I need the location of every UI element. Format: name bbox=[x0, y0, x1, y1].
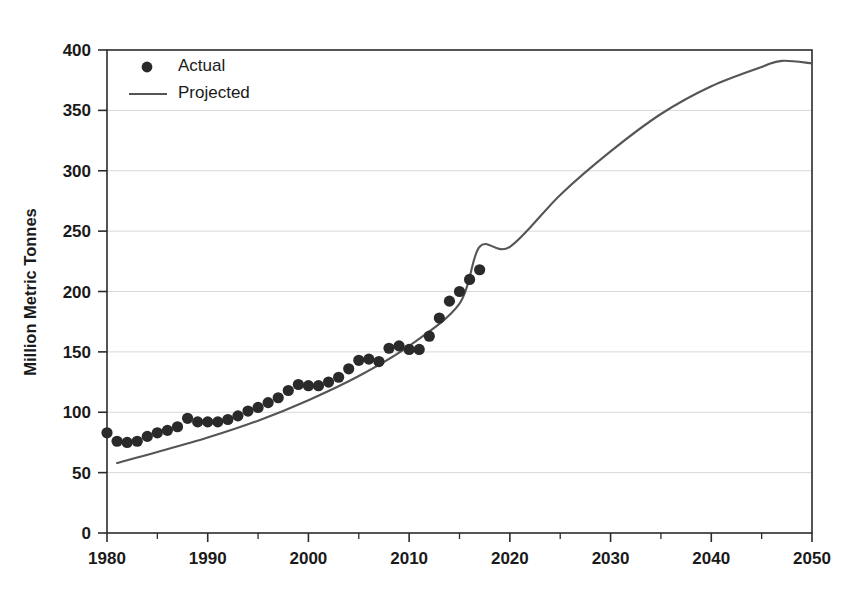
data-point bbox=[373, 356, 384, 367]
data-point bbox=[263, 397, 274, 408]
y-axis-tick-label: 250 bbox=[63, 222, 91, 241]
chart-container: 050100150200250300350400 198019902000201… bbox=[0, 0, 868, 601]
chart-legend: Actual Projected bbox=[129, 56, 250, 102]
x-axis-tick-label: 2030 bbox=[592, 549, 630, 568]
data-point bbox=[152, 427, 163, 438]
data-point bbox=[363, 354, 374, 365]
x-axis-tick-label: 2050 bbox=[793, 549, 831, 568]
data-point bbox=[172, 421, 183, 432]
data-point bbox=[182, 413, 193, 424]
data-point bbox=[414, 344, 425, 355]
x-axis-tick-label: 2000 bbox=[290, 549, 328, 568]
data-point bbox=[101, 427, 112, 438]
data-point bbox=[323, 376, 334, 387]
data-point bbox=[192, 416, 203, 427]
data-point bbox=[293, 379, 304, 390]
x-axis-tick-label: 2040 bbox=[692, 549, 730, 568]
legend-dot-icon bbox=[142, 62, 153, 73]
data-point bbox=[202, 416, 213, 427]
legend-label-projected: Projected bbox=[178, 83, 250, 102]
data-point bbox=[454, 286, 465, 297]
chart-figure: 050100150200250300350400 198019902000201… bbox=[0, 0, 868, 601]
data-point bbox=[222, 414, 233, 425]
y-axis-tick-label: 150 bbox=[63, 343, 91, 362]
y-axis-tick-label: 50 bbox=[72, 464, 91, 483]
y-axis-tick-label: 300 bbox=[63, 162, 91, 181]
data-point bbox=[434, 312, 445, 323]
x-axis-tick-label: 2010 bbox=[390, 549, 428, 568]
data-point bbox=[212, 416, 223, 427]
data-point bbox=[132, 436, 143, 447]
data-point bbox=[252, 402, 263, 413]
data-point bbox=[393, 340, 404, 351]
data-point bbox=[343, 363, 354, 374]
data-point bbox=[111, 436, 122, 447]
y-axis-tick-label: 400 bbox=[63, 41, 91, 60]
x-axis-tick-label: 1980 bbox=[88, 549, 126, 568]
data-point bbox=[232, 410, 243, 421]
data-point bbox=[303, 380, 314, 391]
y-axis-title: Million Metric Tonnes bbox=[21, 208, 39, 375]
data-point bbox=[142, 431, 153, 442]
data-point bbox=[273, 392, 284, 403]
data-point bbox=[313, 380, 324, 391]
data-point bbox=[474, 264, 485, 275]
x-axis: 19801990200020102020203020402050 bbox=[88, 533, 831, 568]
series-line-projected bbox=[117, 61, 812, 463]
x-axis-tick-label: 2020 bbox=[491, 549, 529, 568]
data-point bbox=[383, 343, 394, 354]
data-point bbox=[333, 372, 344, 383]
legend-label-actual: Actual bbox=[178, 56, 225, 75]
y-axis-tick-label: 100 bbox=[63, 403, 91, 422]
data-point bbox=[242, 405, 253, 416]
x-axis-tick-label: 1990 bbox=[189, 549, 227, 568]
y-axis-tick-label: 350 bbox=[63, 101, 91, 120]
y-axis-tick-label: 200 bbox=[63, 283, 91, 302]
data-point bbox=[444, 296, 455, 307]
y-axis: 050100150200250300350400 bbox=[63, 41, 107, 543]
data-point bbox=[464, 274, 475, 285]
data-point bbox=[404, 344, 415, 355]
data-point bbox=[424, 331, 435, 342]
data-point bbox=[122, 437, 133, 448]
data-point bbox=[283, 385, 294, 396]
y-axis-tick-label: 0 bbox=[82, 524, 91, 543]
data-point bbox=[162, 425, 173, 436]
data-point bbox=[353, 355, 364, 366]
